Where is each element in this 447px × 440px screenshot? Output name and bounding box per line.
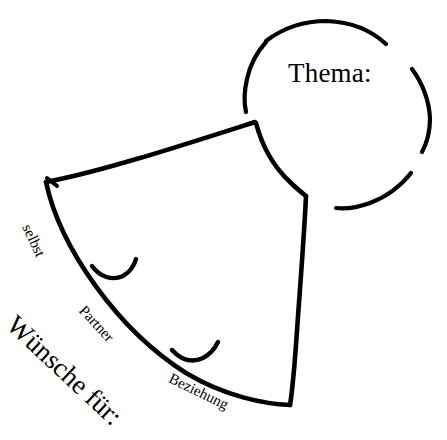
- thema-circle-arc-lower-right: [336, 173, 411, 208]
- shield-edge-top: [46, 122, 255, 182]
- thema-label: Thema:: [288, 60, 372, 87]
- segment-divider-group: [92, 259, 218, 360]
- divider-tick-partner-beziehung: [172, 342, 218, 360]
- shield-edge-right: [290, 196, 306, 405]
- thema-circle-arc-lower-left: [256, 123, 306, 196]
- thema-circle-arc-top: [266, 21, 386, 44]
- diagram-canvas: Thema: selbst Partner Beziehung Wünsche …: [0, 0, 447, 440]
- thema-circle-arc-upper-right: [412, 69, 430, 152]
- divider-tick-selbst-partner: [92, 259, 136, 278]
- thema-circle-group: [245, 21, 430, 208]
- shield-outline-group: [46, 122, 306, 405]
- thema-circle-arc-left: [245, 42, 266, 112]
